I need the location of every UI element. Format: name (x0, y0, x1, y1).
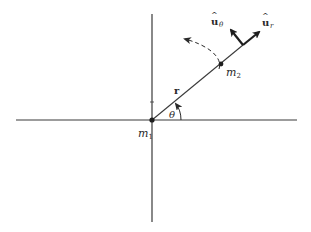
radius-vector-line (152, 45, 243, 120)
rotation-direction-dashed-arc (185, 39, 220, 69)
polar-coordinates-diagram: m1 m2 r θ ^ u θ ^ u r (0, 0, 311, 232)
label-m1: m1 (138, 127, 153, 141)
theta-angle-arc (176, 104, 181, 120)
unit-vector-r-arrow (243, 32, 259, 45)
svg-text:u: u (262, 17, 269, 28)
svg-text:θ: θ (219, 21, 224, 29)
label-theta: θ (169, 109, 175, 120)
mass-m1-dot (149, 117, 154, 122)
label-u-theta: ^ u θ (211, 10, 224, 29)
unit-vector-theta-arrow (231, 30, 243, 45)
label-u-r: ^ u r (262, 11, 274, 30)
label-r: r (174, 85, 180, 96)
svg-text:u: u (211, 16, 218, 27)
svg-text:r: r (270, 22, 274, 30)
label-m2: m2 (226, 66, 241, 80)
